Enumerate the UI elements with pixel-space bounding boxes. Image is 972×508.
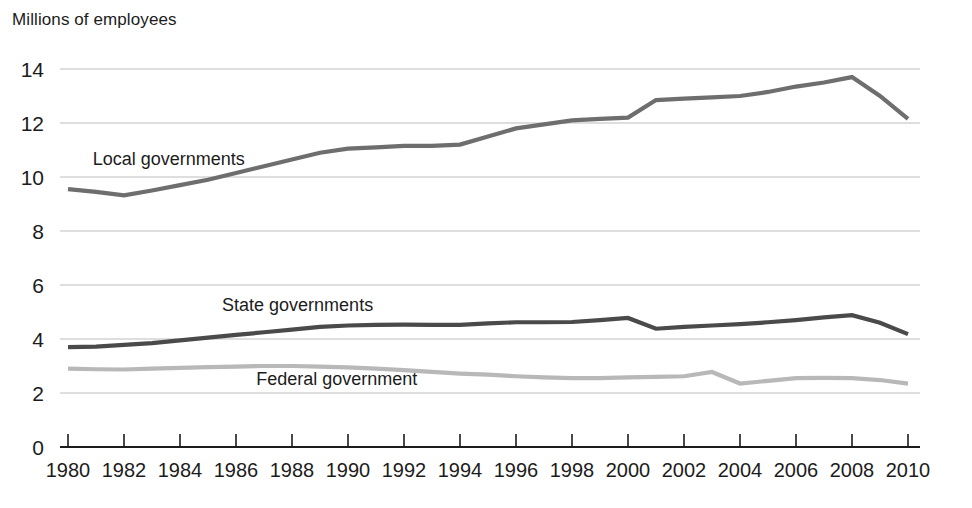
x-axis-tick-label: 1998 bbox=[550, 459, 595, 481]
y-axis-tick-label: 0 bbox=[32, 436, 44, 459]
x-axis-tick-label: 1992 bbox=[382, 459, 427, 481]
x-axis-tick-label: 1986 bbox=[214, 459, 259, 481]
x-axis-tick-label: 2006 bbox=[774, 459, 819, 481]
chart-container: Millions of employees 02468101214 198019… bbox=[0, 0, 972, 508]
series-line-state-governments bbox=[68, 315, 908, 347]
y-axis-tick-labels: 02468101214 bbox=[21, 58, 45, 459]
x-axis-tick-label: 1982 bbox=[102, 459, 147, 481]
line-chart-plot: 02468101214 1980198219841986198819901992… bbox=[0, 0, 972, 508]
series-line-local-governments bbox=[68, 77, 908, 195]
y-axis-tick-label: 10 bbox=[21, 166, 44, 189]
x-axis-tick-label: 1988 bbox=[270, 459, 315, 481]
y-axis-tick-label: 8 bbox=[32, 220, 44, 243]
y-axis-tick-label: 4 bbox=[32, 328, 44, 351]
gridlines-group bbox=[60, 69, 920, 393]
y-axis-tick-label: 12 bbox=[21, 112, 44, 135]
x-axis-tick-label: 1994 bbox=[438, 459, 483, 481]
x-axis-tick-label: 2010 bbox=[886, 459, 931, 481]
x-axis-tick-label: 2008 bbox=[830, 459, 875, 481]
x-axis-tick-label: 1990 bbox=[326, 459, 371, 481]
x-axis-tick-label: 1984 bbox=[158, 459, 203, 481]
x-axis-tick-label: 1996 bbox=[494, 459, 539, 481]
series-annotation-label: Local governments bbox=[93, 149, 245, 169]
series-line-federal-government bbox=[68, 366, 908, 384]
y-axis-tick-label: 2 bbox=[32, 382, 44, 405]
y-axis-tick-label: 6 bbox=[32, 274, 44, 297]
x-axis-tick-label: 2002 bbox=[662, 459, 707, 481]
x-axis-tick-labels: 1980198219841986198819901992199419961998… bbox=[46, 459, 931, 481]
x-axis-tick-label: 2000 bbox=[606, 459, 651, 481]
x-axis-tick-label: 1980 bbox=[46, 459, 91, 481]
series-annotation-label: Federal government bbox=[256, 369, 417, 389]
x-axis-tickmarks bbox=[68, 434, 908, 446]
series-annotations-group: Local governmentsState governmentsFedera… bbox=[93, 149, 418, 389]
y-axis-tick-label: 14 bbox=[21, 58, 45, 81]
x-axis-tick-label: 2004 bbox=[718, 459, 763, 481]
series-annotation-label: State governments bbox=[222, 295, 373, 315]
